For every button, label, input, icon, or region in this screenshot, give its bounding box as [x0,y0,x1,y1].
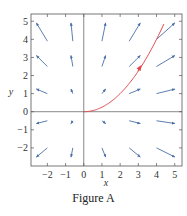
solution-curve [84,24,164,112]
field-arrow [129,121,140,124]
field-arrow [129,148,140,157]
y-tick-label: −2 [17,142,28,153]
field-arrow [71,148,73,157]
y-tick-label: 3 [23,52,28,63]
field-arrow [102,56,106,67]
field-arrow [102,89,106,94]
field-arrow [157,148,175,157]
x-tick-label: 0 [81,169,86,180]
field-arrow [129,56,140,67]
y-tick-label: 0 [23,106,28,117]
field-arrow [71,23,73,41]
field-arrow [71,56,73,67]
x-tick-label: 4 [154,169,159,180]
tick-labels: −2−1012345−2−1012345 [17,16,177,180]
field-arrow [102,23,106,41]
curve-path [84,24,164,112]
field-arrow [36,56,47,67]
field-arrow [157,89,175,94]
figure-plot: −2−1012345−2−1012345 x y [0,0,187,216]
field-arrow [36,23,47,41]
field-arrow [129,89,140,94]
field-arrow [36,148,47,157]
field-arrow [157,121,175,124]
x-axis-label: x [103,177,109,188]
y-tick-label: 1 [23,88,28,99]
y-tick-label: 2 [23,70,28,81]
y-axis-label: y [8,86,14,97]
x-tick-label: 5 [172,169,177,180]
x-tick-label: 3 [136,169,141,180]
field-arrow [71,121,73,124]
field-arrow [71,89,73,94]
field-arrow [102,148,106,157]
y-tick-label: −1 [17,124,28,135]
vector-field [36,23,174,157]
field-arrow [36,89,47,94]
figure-caption: Figure A [0,191,187,206]
y-tick-label: 4 [23,34,28,45]
field-arrow [157,23,175,39]
x-tick-label: −1 [60,169,71,180]
field-arrow [102,121,106,124]
field-arrow [157,56,175,67]
x-tick-label: −2 [42,169,53,180]
y-tick-label: 5 [23,16,28,27]
field-arrow [129,23,140,41]
x-tick-label: 2 [118,169,123,180]
field-arrow [36,121,47,124]
